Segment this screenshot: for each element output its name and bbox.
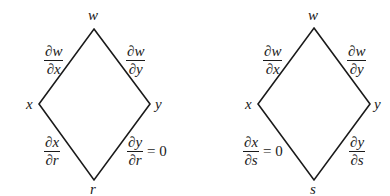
node-s: s	[310, 182, 316, 196]
edge-dw-dx: ∂w∂x	[263, 44, 282, 77]
edge-dw-dx: ∂w∂x	[44, 44, 63, 77]
edge-dw-dy: ∂w∂y	[126, 44, 145, 77]
node-y: y	[155, 97, 162, 112]
node-x: x	[245, 97, 252, 112]
node-w: w	[88, 8, 98, 23]
node-r: r	[90, 182, 96, 196]
node-y: y	[374, 97, 381, 112]
edge-dy-dr: ∂y∂r = 0	[127, 135, 167, 168]
edge-dw-dy: ∂w∂y	[347, 44, 366, 77]
edge-dx-ds: ∂x∂s = 0	[243, 135, 283, 168]
edge-dx-dr: ∂x∂r	[44, 135, 60, 168]
node-w: w	[308, 8, 318, 23]
node-x: x	[26, 97, 33, 112]
edge-dy-ds: ∂y∂s	[349, 135, 365, 168]
